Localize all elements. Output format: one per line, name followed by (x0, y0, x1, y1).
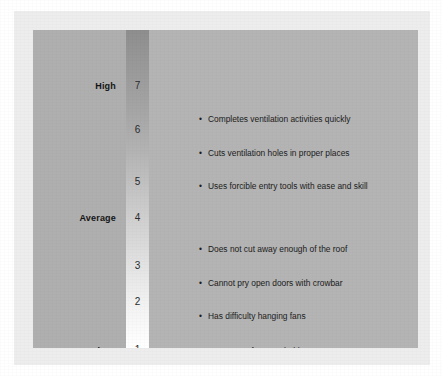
scale-number-1: 1 (126, 344, 149, 348)
behavior-statement-text: Uses forcible entry tools with ease and … (208, 181, 368, 191)
scale-number-3: 3 (126, 260, 149, 271)
anchor-label-average: Average (79, 213, 116, 223)
scale-number-2: 2 (126, 296, 149, 307)
bullet-icon: • (199, 346, 208, 348)
behavior-statement: •Uses forcible entry tools with ease and… (199, 181, 368, 191)
bullet-icon: • (199, 181, 208, 191)
bars-rating-scale-figure: High Average Low 7 6 5 4 3 2 1 •Complete… (33, 30, 418, 348)
behavior-statement: •Cannot get fan up a ladder (199, 346, 307, 348)
anchor-label-column: High Average Low (33, 30, 126, 348)
bullet-icon: • (199, 114, 208, 124)
bullet-icon: • (199, 278, 208, 288)
bullet-icon: • (199, 311, 208, 321)
behavior-statement: •Cuts ventilation holes in proper places (199, 148, 350, 158)
behavior-statement: •Has difficulty hanging fans (199, 311, 306, 321)
scale-number-6: 6 (126, 124, 149, 135)
bullet-icon: • (199, 244, 208, 254)
scale-number-4: 4 (126, 212, 149, 223)
page-root: High Average Low 7 6 5 4 3 2 1 •Complete… (0, 0, 442, 376)
scale-number-5: 5 (126, 176, 149, 187)
behavior-statement-region: •Completes ventilation activities quickl… (149, 30, 418, 348)
behavior-statement-text: Completes ventilation activities quickly (208, 114, 350, 124)
gradient-scale-strip: 7 6 5 4 3 2 1 (126, 30, 149, 348)
behavior-statement: •Completes ventilation activities quickl… (199, 114, 350, 124)
scale-number-7: 7 (126, 80, 149, 91)
behavior-statement-text: Cannot pry open doors with crowbar (208, 278, 343, 288)
behavior-statement: •Cannot pry open doors with crowbar (199, 278, 343, 288)
bullet-icon: • (199, 148, 208, 158)
behavior-statement-text: Does not cut away enough of the roof (208, 244, 347, 254)
behavior-statement-text: Has difficulty hanging fans (208, 311, 306, 321)
behavior-statement: •Does not cut away enough of the roof (199, 244, 347, 254)
behavior-statement-text: Cuts ventilation holes in proper places (208, 148, 350, 158)
anchor-label-low: Low (97, 345, 116, 348)
behavior-statement-text: Cannot get fan up a ladder (208, 346, 307, 348)
anchor-label-high: High (95, 81, 116, 91)
